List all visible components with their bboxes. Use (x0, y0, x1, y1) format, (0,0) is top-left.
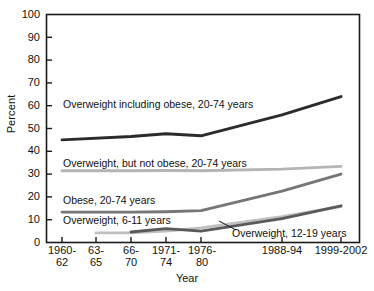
x-tick-1960-62-line2: 62 (42, 257, 82, 269)
chart-figure: Percent 100 90 80 70 60 50 40 30 20 10 0 (0, 0, 374, 291)
x-tick-63-65-line2: 65 (78, 257, 114, 269)
annotation-overweight-including-obese: Overweight including obese, 20-74 years (63, 98, 253, 110)
plot-border (47, 15, 360, 243)
x-tick-1999-2002: 1999-2002 (303, 245, 374, 257)
x-tick-1960-62-line1: 1960- (42, 245, 82, 257)
x-tick-1976-80-line2: 80 (181, 257, 223, 269)
x-tick-63-65-line1: 63- (78, 245, 114, 257)
x-tick-66-70-line2: 70 (113, 257, 149, 269)
x-tick-66-70-line1: 66- (113, 245, 149, 257)
x-axis-title: Year (0, 272, 374, 284)
annotation-overweight-not-obese: Overweight, but not obese, 20-74 years (63, 157, 247, 169)
annotation-obese: Obese, 20-74 years (63, 194, 155, 206)
annotation-overweight-12-19: Overweight, 12-19 years (232, 227, 346, 239)
x-tick-1976-80-line1: 1976- (181, 245, 223, 257)
annotation-overweight-6-11: Overweight, 6-11 years (63, 214, 171, 226)
